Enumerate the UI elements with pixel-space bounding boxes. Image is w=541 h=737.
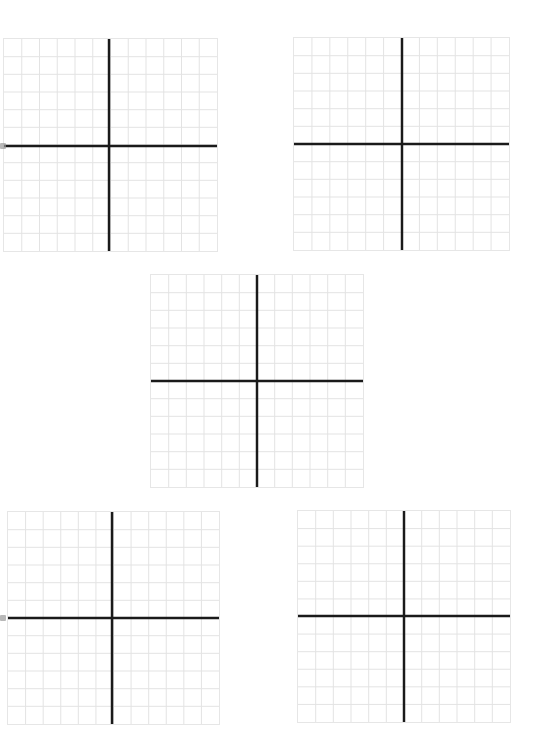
grid: [4, 39, 217, 251]
coordinate-plane-4: [7, 511, 220, 725]
coordinate-plane-3: [150, 274, 364, 488]
coordinate-plane-2: [293, 37, 510, 251]
grid: [8, 512, 219, 724]
coordinate-plane-5: [297, 510, 511, 723]
coordinate-plane-1: [3, 38, 218, 252]
grid: [294, 38, 509, 250]
grid: [151, 275, 363, 487]
margin-mark-1: [0, 143, 6, 149]
margin-mark-2: [0, 615, 6, 621]
grid: [298, 511, 510, 722]
